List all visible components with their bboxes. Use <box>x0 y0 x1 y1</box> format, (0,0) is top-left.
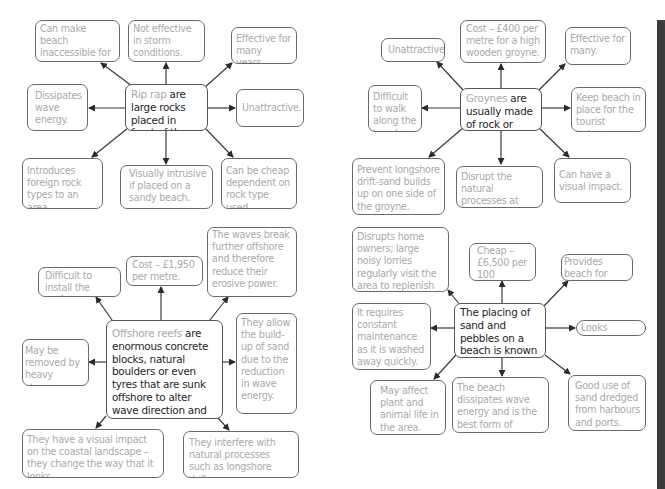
reefs-term: Offshore reefs <box>112 327 182 339</box>
groynes-term: Groynes <box>466 92 507 104</box>
riprap-node: Visually intrusive if placed on a sandy … <box>120 165 213 209</box>
nourishment-node: It requires constant maintenance as it i… <box>352 303 431 370</box>
reefs-node: They have a visual impact on the coastal… <box>22 429 164 478</box>
groynes-node: Unattractive. <box>381 38 445 62</box>
nourishment-node: Provides beach for tourists. <box>561 254 633 281</box>
riprap-node: Effective for many years. <box>231 27 297 64</box>
arrow <box>210 297 228 320</box>
arrow <box>96 297 112 320</box>
arrow <box>544 281 568 306</box>
reefs-node: The waves break further offshore and the… <box>207 227 297 297</box>
riprap-node: Not effective in storm conditions. <box>128 20 205 62</box>
connector-arrows <box>0 0 665 489</box>
groynes-node: Keep beach in place for the tourist indu… <box>571 87 646 132</box>
arrow <box>101 63 132 86</box>
reefs-center: Offshore reefs are enormous concrete blo… <box>106 320 223 419</box>
reefs-node: Cost – £1,950 per metre. <box>126 256 203 286</box>
arrow <box>205 128 233 157</box>
riprap-node: Unattractive. <box>236 89 304 127</box>
reefs-node: May be removed by heavy storms. <box>22 339 89 386</box>
arrow <box>539 128 569 157</box>
groynes-node: Prevent longshore drift-sand builds up o… <box>352 158 445 215</box>
riprap-node: Can make beach inaccessible for tourists… <box>35 20 120 62</box>
riprap-node: Can be cheap dependent on rock type used… <box>221 158 297 209</box>
arrow <box>204 63 232 88</box>
reefs-definition: are enormous concrete blocks, natural bo… <box>112 327 208 419</box>
nourishment-definition: The placing of sand and pebbles on a bea… <box>460 306 537 358</box>
riprap-node: Dissipates wave energy. <box>27 84 88 131</box>
riprap-center: Rip rap are large rocks placed in front … <box>125 84 208 131</box>
groynes-node: Effective for many. <box>565 27 631 65</box>
arrow <box>96 416 106 428</box>
riprap-node: Introduces foreign rock types to an area… <box>22 158 103 209</box>
reefs-node: They allow the build-up of sand due to t… <box>236 313 297 414</box>
arrow <box>434 355 456 379</box>
arrow <box>218 418 229 430</box>
nourishment-center: The placing of sand and pebbles on a bea… <box>454 303 546 358</box>
groynes-node: Cost – £400 per metre for a high wooden … <box>460 20 546 63</box>
groynes-node: Disrupt the natural processes at work on… <box>456 166 543 208</box>
reefs-node: They interfere with natural processes su… <box>183 431 299 478</box>
nourishment-node: Looks natural. <box>576 320 646 336</box>
nourishment-node: The beach dissipates wave energy and is … <box>452 377 549 433</box>
nourishment-node: Disrupts home owners; large noisy lorrie… <box>352 227 449 292</box>
arrow <box>429 128 463 157</box>
groynes-node: Can have a visual impact. <box>554 158 631 203</box>
groynes-center: Groynes are usually made of rock or wood… <box>460 88 542 131</box>
nourishment-node: Good use of sand dredged from harbours a… <box>568 375 646 431</box>
nourishment-node: May affect plant and animal life in the … <box>370 380 446 435</box>
reefs-node: Difficult to install the reefs. <box>38 267 121 297</box>
arrow <box>545 355 570 374</box>
nourishment-node: Cheap – £6,500 per 100 metres. <box>469 243 536 281</box>
arrow <box>538 64 565 91</box>
page-edge-strip <box>657 20 665 489</box>
arrow <box>437 62 463 90</box>
arrow <box>92 128 128 157</box>
riprap-term: Rip rap <box>131 88 167 100</box>
nourishment-term: beach nourishment. <box>460 357 526 358</box>
groynes-node: Difficult to walk along the beach. <box>368 85 422 132</box>
